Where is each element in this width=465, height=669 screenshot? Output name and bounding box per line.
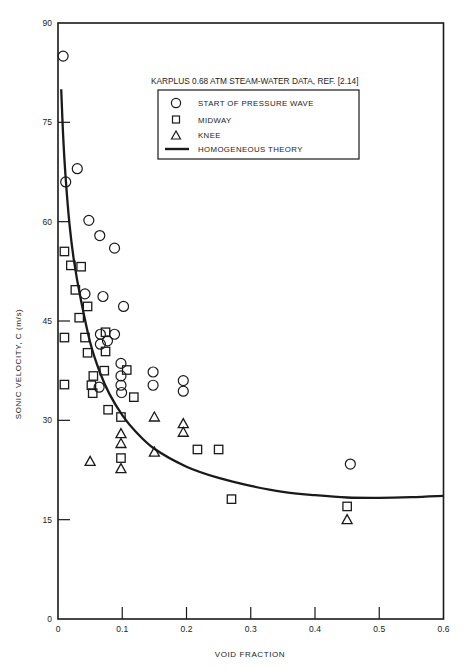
triangle-marker	[116, 429, 126, 438]
circle-marker	[72, 164, 82, 174]
circle-marker	[148, 380, 158, 390]
triangle-marker	[342, 515, 352, 524]
square-marker	[89, 372, 97, 380]
square-marker	[60, 380, 68, 388]
circle-marker	[148, 367, 158, 377]
y-tick-label: 15	[43, 515, 53, 525]
square-marker	[193, 445, 201, 453]
circle-marker	[98, 291, 108, 301]
triangle-marker	[149, 412, 159, 421]
legend-label-midway: MIDWAY	[198, 116, 232, 125]
circle-marker	[345, 459, 355, 469]
square-marker	[75, 313, 83, 321]
legend-label-homogeneous-theory: HOMOGENEOUS THEORY	[198, 145, 303, 154]
y-tick-label: 45	[43, 316, 53, 326]
y-tick-label: 75	[43, 117, 53, 127]
square-marker	[60, 333, 68, 341]
y-axis: 0153045607590	[43, 18, 70, 624]
x-tick-label: 0.6	[438, 624, 450, 634]
y-axis-title: SONIC VELOCITY, C (m/s)	[14, 309, 23, 420]
square-marker	[83, 302, 91, 310]
circle-marker	[58, 51, 68, 61]
x-tick-label: 0.3	[245, 624, 257, 634]
circle-marker	[178, 376, 188, 386]
square-marker	[227, 495, 235, 503]
triangle-marker	[116, 439, 126, 448]
circle-marker	[117, 388, 127, 398]
square-marker	[214, 445, 222, 453]
circle-marker	[102, 336, 112, 346]
legend-label-knee: KNEE	[198, 131, 221, 140]
x-tick-label: 0.2	[181, 624, 193, 634]
circle-marker	[80, 289, 90, 299]
circle-marker	[116, 371, 126, 381]
x-tick-label: 0.5	[373, 624, 385, 634]
y-tick-label: 30	[43, 415, 53, 425]
y-tick-label: 60	[43, 217, 53, 227]
legend: KARPLUS 0.68 ATM STEAM-WATER DATA, REF. …	[151, 76, 359, 159]
chart: 00.10.20.30.40.50.6 0153045607590 VOID F…	[0, 0, 465, 669]
circle-marker	[110, 243, 120, 253]
triangle-marker	[85, 456, 95, 465]
square-marker	[83, 349, 91, 357]
x-tick-label: 0	[56, 624, 61, 634]
square-marker	[104, 406, 112, 414]
square-marker	[343, 502, 351, 510]
circle-marker	[116, 358, 126, 368]
y-tick-label: 90	[43, 18, 53, 28]
square-marker	[60, 247, 68, 255]
y-tick-label: 0	[47, 614, 52, 624]
square-marker	[77, 262, 85, 270]
x-axis: 00.10.20.30.40.50.6	[56, 607, 450, 634]
circle-marker	[61, 177, 71, 187]
circle-marker	[178, 386, 188, 396]
legend-label-start-of-pressure-wave: START OF PRESSURE WAVE	[198, 99, 314, 108]
square-marker	[117, 454, 125, 462]
triangle-marker	[178, 427, 188, 436]
x-axis-title: VOID FRACTION	[215, 650, 285, 659]
circle-marker	[84, 215, 94, 225]
circle-marker	[119, 301, 129, 311]
legend-title: KARPLUS 0.68 ATM STEAM-WATER DATA, REF. …	[151, 76, 358, 86]
circle-marker	[95, 231, 105, 241]
square-marker	[130, 393, 138, 401]
x-tick-label: 0.1	[116, 624, 128, 634]
x-tick-label: 0.4	[309, 624, 321, 634]
triangle-marker	[116, 464, 126, 473]
